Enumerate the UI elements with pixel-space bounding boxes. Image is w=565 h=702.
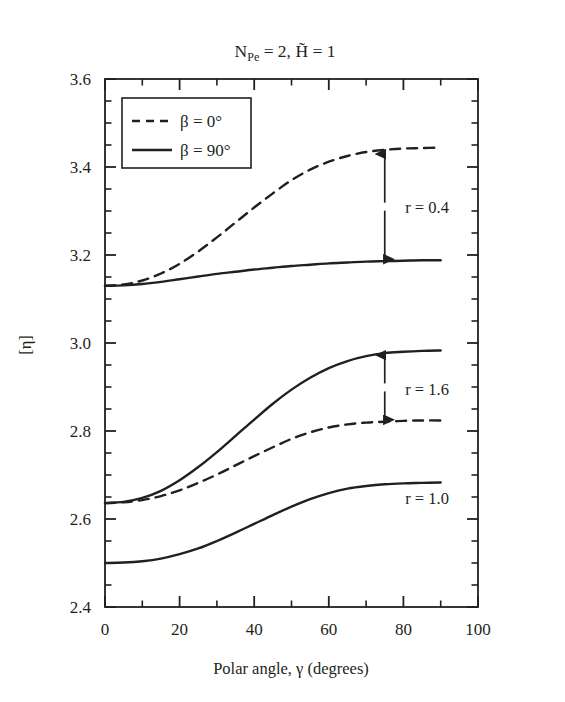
- x-axis-label: Polar angle, γ (degrees): [213, 659, 369, 678]
- y-tick-label: 2.4: [70, 598, 92, 617]
- chart-title-text: NPe = 2, H̃ = 1: [235, 41, 336, 64]
- x-axis-tick-labels: 020406080100: [101, 620, 491, 639]
- y-axis-label: [η]: [16, 335, 35, 355]
- data-series-group: [105, 148, 441, 563]
- y-tick-label: 2.8: [70, 422, 91, 441]
- title-n-main: N: [235, 41, 248, 61]
- annotation-label: r = 1.0: [405, 489, 449, 508]
- annotation-group: r = 0.4r = 1.6r = 1.0: [385, 154, 449, 508]
- legend-label-beta-0: β = 0°: [180, 112, 222, 131]
- x-tick-label: 20: [171, 620, 188, 639]
- data-curve: [105, 420, 441, 503]
- title-h-main: H̃: [295, 41, 308, 61]
- chart-figure: NPe = 2, H̃ = 1 020406080100 2.42.62.83.…: [0, 0, 565, 702]
- annotation-label: r = 0.4: [405, 198, 449, 217]
- legend-label-beta-90: β = 90°: [180, 141, 231, 160]
- y-tick-label: 3.4: [70, 158, 92, 177]
- y-tick-label: 2.6: [70, 510, 91, 529]
- y-tick-label: 3.6: [70, 70, 91, 89]
- annotation-label: r = 1.6: [405, 380, 449, 399]
- y-tick-label: 3.0: [70, 334, 91, 353]
- title-n-eq: = 2,: [259, 41, 295, 61]
- legend: β = 0° β = 90°: [122, 98, 251, 168]
- y-tick-label: 3.2: [70, 246, 91, 265]
- y-axis-tick-labels: 2.42.62.83.03.23.43.6: [70, 70, 92, 617]
- x-tick-label: 0: [101, 620, 110, 639]
- x-tick-label: 80: [395, 620, 412, 639]
- data-curve: [105, 260, 441, 286]
- x-tick-label: 60: [320, 620, 337, 639]
- data-curve: [105, 350, 441, 503]
- chart-title: NPe = 2, H̃ = 1: [235, 41, 336, 64]
- x-tick-label: 100: [465, 620, 491, 639]
- title-n-sub: Pe: [247, 50, 259, 64]
- chart-canvas: NPe = 2, H̃ = 1 020406080100 2.42.62.83.…: [0, 0, 565, 702]
- x-tick-label: 40: [246, 620, 263, 639]
- title-h-eq: = 1: [308, 41, 335, 61]
